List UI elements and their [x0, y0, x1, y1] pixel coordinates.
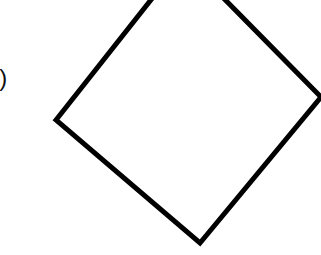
diamond-shape — [0, 0, 321, 255]
